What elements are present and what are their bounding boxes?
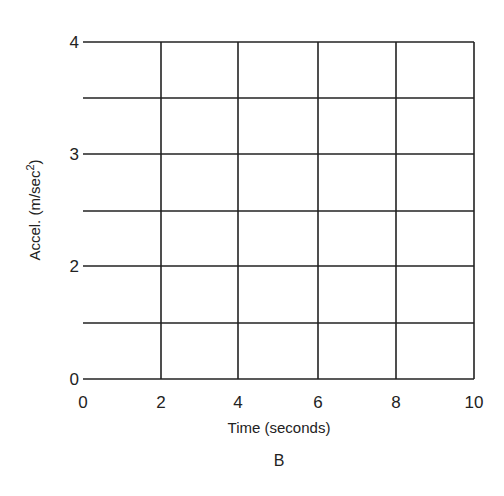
acceleration-time-chart: 4320 0246810 Time (seconds) Accel. (m/se… xyxy=(0,0,504,496)
x-tick-label: 6 xyxy=(313,393,322,412)
x-tick-label: 8 xyxy=(391,393,400,412)
y-tick-label: 4 xyxy=(70,33,79,52)
y-tick-label: 2 xyxy=(70,257,79,276)
y-tick-label: 3 xyxy=(70,145,79,164)
x-tick-label: 10 xyxy=(465,393,484,412)
x-tick-label: 0 xyxy=(78,393,87,412)
x-axis-title: Time (seconds) xyxy=(228,419,331,436)
x-tick-labels: 0246810 xyxy=(78,393,483,412)
x-tick-label: 4 xyxy=(233,393,242,412)
x-tick-label: 2 xyxy=(156,393,165,412)
panel-label: B xyxy=(274,452,285,469)
y-axis-title-close: ) xyxy=(26,159,43,164)
y-tick-labels: 4320 xyxy=(70,33,79,389)
horizontal-gridlines xyxy=(83,42,474,379)
y-axis-title-main: Accel. (m/sec xyxy=(26,170,43,261)
y-axis-title: Accel. (m/sec2) xyxy=(24,159,43,260)
y-tick-label: 0 xyxy=(70,370,79,389)
